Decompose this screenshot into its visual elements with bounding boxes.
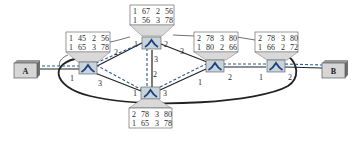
svg-text:2: 2: [288, 73, 292, 82]
svg-text:3: 3: [163, 89, 167, 98]
host-b-label: B: [331, 67, 337, 76]
svg-text:3: 3: [180, 47, 184, 56]
svg-text:2: 2: [228, 73, 232, 82]
svg-text:2: 2: [164, 40, 168, 49]
svg-text:3: 3: [154, 55, 158, 64]
svg-text:2: 2: [114, 48, 118, 57]
svg-text:1: 1: [70, 74, 74, 83]
switch-s4[interactable]: 2 78 3 80 1 80 2 66 1 2 3: [180, 32, 238, 87]
svg-text:1: 1: [133, 89, 137, 98]
svg-text:1: 1: [259, 73, 263, 82]
host-a-label: A: [23, 67, 29, 76]
svg-text:1: 1: [198, 78, 202, 87]
svg-text:1: 1: [134, 40, 138, 49]
svg-text:2: 2: [153, 70, 157, 79]
switch-s5[interactable]: 2 78 3 80 1 66 2 72 1 2: [255, 32, 298, 82]
host-a[interactable]: A: [14, 60, 40, 78]
link-s5-b: [285, 67, 322, 68]
network-diagram: A B 1 45 2 56 1 65 3 78 1 2 3: [0, 0, 362, 141]
svg-text:3: 3: [98, 79, 102, 88]
switch-s3[interactable]: 2 78 3 80 1 65 3 78 1 2 3: [129, 70, 172, 128]
host-b[interactable]: B: [322, 60, 348, 78]
